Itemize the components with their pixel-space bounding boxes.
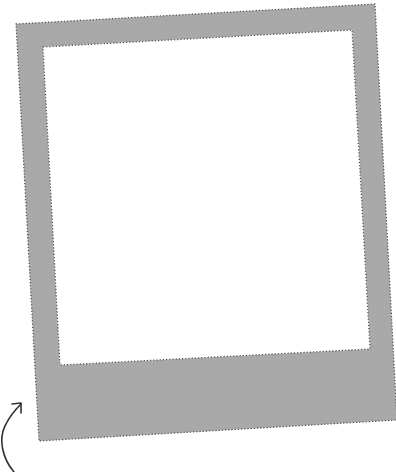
curved-arrow-icon xyxy=(2,403,21,472)
polaroid-frame-graphic xyxy=(0,0,396,472)
canvas xyxy=(0,0,396,472)
photo-area[interactable] xyxy=(43,30,370,365)
